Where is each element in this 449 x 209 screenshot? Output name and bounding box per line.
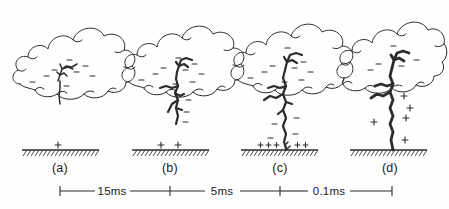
panel-label-a: (a) <box>52 161 68 175</box>
panel-b: (b) <box>122 26 244 175</box>
cloud-scallop-c <box>236 36 350 90</box>
panel-label-d: (d) <box>382 161 398 175</box>
ground-charges-a <box>55 142 61 148</box>
timeline: 15ms 5ms 0.1ms <box>60 185 392 197</box>
panel-c: (c) <box>231 24 353 175</box>
panel-d: (d) <box>337 22 447 175</box>
panel-label-b: (b) <box>162 161 178 175</box>
upward-streamer-c <box>285 142 290 150</box>
panel-a: (a) <box>13 28 135 175</box>
timeline-label-15ms: 15ms <box>98 185 127 197</box>
leader-channel-a <box>57 64 77 104</box>
lightning-sequence-figure: (a) <box>0 0 449 209</box>
ground-c <box>241 143 318 157</box>
ground-charges-b <box>158 142 181 148</box>
ground-hatching-b <box>133 150 209 156</box>
cloud-charges-b <box>139 58 204 84</box>
ground-charges-c <box>258 143 308 148</box>
cloud-outline-a <box>13 28 135 99</box>
ground-a <box>22 142 99 156</box>
leader-charges-b <box>183 100 191 122</box>
ground-hatching-a <box>23 150 99 156</box>
timeline-label-0.1ms: 0.1ms <box>313 185 345 197</box>
cloud-scallop-a <box>18 40 132 94</box>
cloud-charges-c <box>248 48 313 82</box>
ground-hatching-d <box>351 150 427 156</box>
timeline-label-5ms: 5ms <box>211 185 233 197</box>
ground-hatching-c <box>242 150 318 156</box>
cloud-outline-b <box>122 26 244 97</box>
ground-b <box>132 142 209 156</box>
panel-label-c: (c) <box>272 161 287 175</box>
figure-canvas: (a) <box>0 0 449 209</box>
ground-d <box>350 150 427 156</box>
